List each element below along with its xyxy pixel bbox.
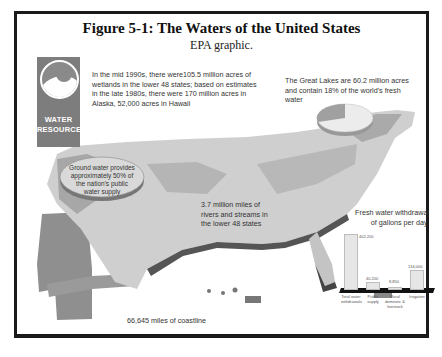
value-total: 402,200 bbox=[359, 234, 373, 239]
value-rural: 8,850 bbox=[389, 279, 399, 284]
withdrawal-bar-chart: 402,200 40,200 8,850 134,000 Total water… bbox=[342, 232, 432, 290]
figure-frame: Figure 5-1: The Waters of the United Sta… bbox=[14, 11, 429, 338]
coastline-callout: 66,645 miles of coastline bbox=[127, 316, 247, 326]
bar-rural bbox=[388, 287, 402, 290]
wetlands-callout: In the mid 1990s, there were105.5 millio… bbox=[92, 70, 262, 108]
great-lakes-pie-chart bbox=[315, 100, 375, 140]
bar-total bbox=[344, 234, 358, 290]
badge-line2: RESOURCES bbox=[37, 125, 80, 135]
cat-public-supply: Public supply bbox=[363, 294, 383, 304]
withdrawal-chart-title: Fresh water withdrawal of gallons per da… bbox=[349, 208, 429, 227]
water-resources-badge: WATER RESOURCES bbox=[37, 57, 80, 147]
cat-rural: Rural domestic & livestock bbox=[385, 294, 405, 309]
rivers-callout: 3.7 million miles of rivers and streams … bbox=[201, 200, 279, 229]
bar-public-supply bbox=[366, 282, 380, 290]
value-public-supply: 40,200 bbox=[366, 276, 378, 281]
ground-water-callout: Ground water provides approximately 50% … bbox=[69, 164, 135, 196]
wave-icon bbox=[40, 60, 79, 99]
value-irrigation: 134,000 bbox=[408, 264, 422, 269]
cat-total: Total water withdrawals bbox=[341, 294, 361, 304]
cat-irrigation: Irrigation bbox=[407, 294, 427, 299]
badge-line1: WATER bbox=[37, 115, 80, 125]
bar-irrigation bbox=[410, 270, 424, 290]
